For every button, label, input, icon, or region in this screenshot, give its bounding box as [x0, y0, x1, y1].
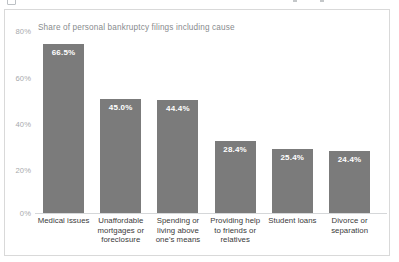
- bar-slot: 66.5%: [35, 10, 92, 213]
- x-axis-category-label: Unaffordablemortgages orforeclosure: [92, 216, 149, 245]
- x-axis-category-label: Spending orliving aboveone's means: [149, 216, 206, 245]
- bar-value-label: 28.4%: [215, 145, 256, 154]
- bar-value-label: 45.0%: [100, 103, 141, 112]
- bar[interactable]: 24.4%: [329, 151, 370, 213]
- bar[interactable]: 45.0%: [100, 99, 141, 213]
- app-icon: [7, 0, 16, 5]
- bar-slot: 28.4%: [207, 10, 264, 213]
- toolbar-mark-icon: [293, 0, 297, 2]
- y-axis-tick-0: 0%: [5, 209, 31, 218]
- bar-slot: 45.0%: [92, 10, 149, 213]
- bar[interactable]: 44.4%: [157, 100, 198, 213]
- x-axis-category-label: Providing helpto friends orrelatives: [207, 216, 264, 245]
- y-axis: 80% 60% 40% 20% 0%: [5, 10, 31, 255]
- bar[interactable]: 28.4%: [215, 141, 256, 213]
- bar-series: 66.5% 45.0% 44.4% 28.4%: [35, 10, 387, 213]
- toolbar-mark-icon: [320, 0, 324, 2]
- bar-value-label: 66.5%: [43, 48, 84, 57]
- x-axis-category-label: Divorce orseparation: [321, 216, 378, 235]
- bar-slot: 44.4%: [149, 10, 206, 213]
- y-axis-tick-40: 40%: [5, 120, 31, 129]
- bar[interactable]: 66.5%: [43, 44, 84, 213]
- y-axis-tick-80: 80%: [5, 27, 31, 36]
- bar-value-label: 25.4%: [272, 153, 313, 162]
- bar-chart: Share of personal bankruptcy filings inc…: [5, 10, 389, 255]
- bar[interactable]: 25.4%: [272, 149, 313, 213]
- bar-value-label: 24.4%: [329, 155, 370, 164]
- x-axis-baseline: [35, 213, 387, 214]
- bar-slot: 24.4%: [321, 10, 378, 213]
- screenshot-root: Share of personal bankruptcy filings inc…: [0, 0, 399, 262]
- x-axis-categories: Medical issues Unaffordablemortgages orf…: [35, 216, 387, 256]
- host-ui-strip: [0, 0, 399, 7]
- x-axis-category-label: Medical issues: [35, 216, 92, 226]
- bar-value-label: 44.4%: [157, 104, 198, 113]
- y-axis-tick-20: 20%: [5, 166, 31, 175]
- chart-card: Share of personal bankruptcy filings inc…: [4, 9, 390, 256]
- x-axis-category-label: Student loans: [264, 216, 321, 226]
- bar-slot: 25.4%: [264, 10, 321, 213]
- y-axis-tick-60: 60%: [5, 74, 31, 83]
